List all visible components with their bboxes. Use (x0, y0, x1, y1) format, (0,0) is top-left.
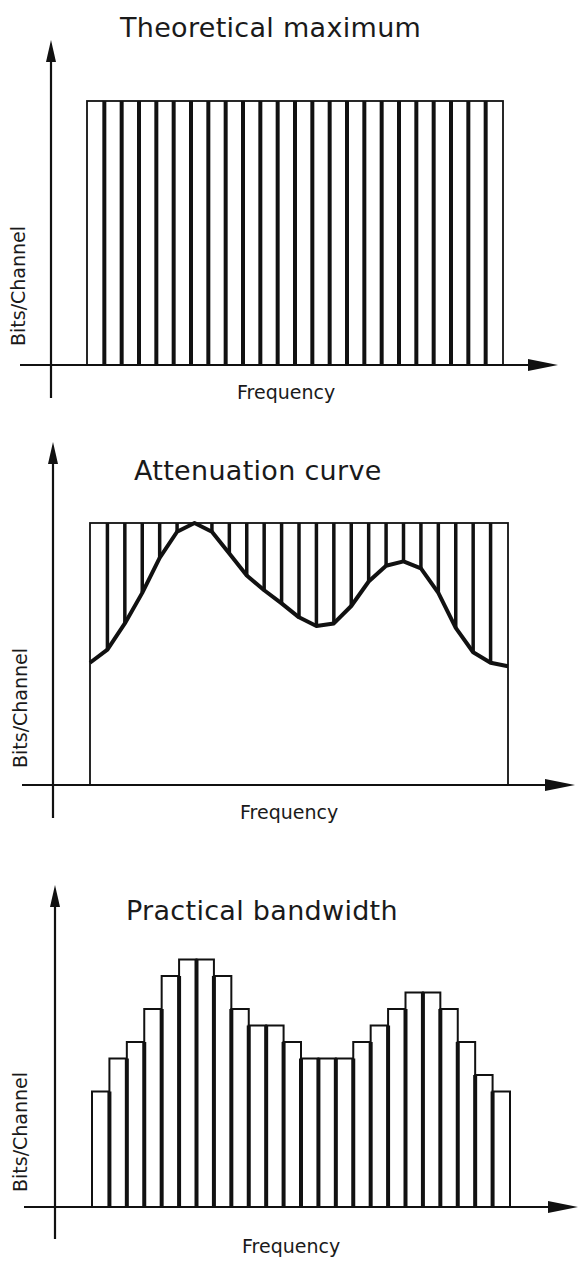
channel-bar (371, 1026, 388, 1208)
chart-title: Theoretical maximum (120, 12, 421, 43)
channel-bar (301, 1059, 318, 1208)
x-axis-label: Frequency (237, 381, 335, 403)
y-axis-label: Bits/Channel (9, 1072, 31, 1192)
channel-bar (353, 1042, 370, 1207)
channel-bar (109, 1059, 126, 1208)
channel-bar (266, 1026, 283, 1208)
channel-bar (127, 1042, 144, 1207)
y-axis-label: Bits/Channel (7, 226, 29, 346)
y-axis-arrow-icon (48, 442, 58, 464)
channel-bar (318, 1059, 335, 1208)
channel-bar (284, 1042, 301, 1207)
x-axis-label: Frequency (240, 801, 338, 823)
y-axis-label: Bits/Channel (9, 648, 31, 768)
x-axis-label: Frequency (242, 1235, 340, 1257)
channel-bar (214, 976, 231, 1207)
chart-title: Practical bandwidth (126, 895, 398, 926)
channel-bar (197, 960, 214, 1208)
chart-title: Attenuation curve (134, 455, 382, 486)
channel-bar (493, 1092, 510, 1208)
channel-bar (179, 960, 196, 1208)
channel-bar (231, 1009, 248, 1207)
y-axis-arrow-icon (46, 40, 56, 62)
channel-bar (336, 1059, 353, 1208)
chart-practical-bandwidth: Practical bandwidth Frequency Bits/Chann… (0, 870, 585, 1286)
channel-bar (162, 976, 179, 1207)
channel-bar (475, 1075, 492, 1207)
chart-2-plot (0, 430, 585, 850)
x-axis-arrow-icon (528, 359, 558, 371)
channel-bar (423, 993, 440, 1208)
channel-bar (92, 1092, 109, 1208)
chart-attenuation-curve: Attenuation curve Frequency Bits/Channel (0, 430, 585, 850)
channel-bar (406, 993, 423, 1208)
channel-bar (388, 1009, 405, 1207)
channel-bar (144, 1009, 161, 1207)
x-axis-arrow-icon (545, 779, 575, 791)
channel-bar (440, 1009, 457, 1207)
channel-bar (458, 1042, 475, 1207)
chart-1-plot (0, 0, 585, 420)
channel-bar (249, 1026, 266, 1208)
x-axis-arrow-icon (548, 1201, 578, 1213)
chart-theoretical-maximum: Theoretical maximum Frequency Bits/Chann… (0, 0, 585, 420)
chart-3-plot (0, 870, 585, 1286)
y-axis-arrow-icon (50, 885, 60, 907)
